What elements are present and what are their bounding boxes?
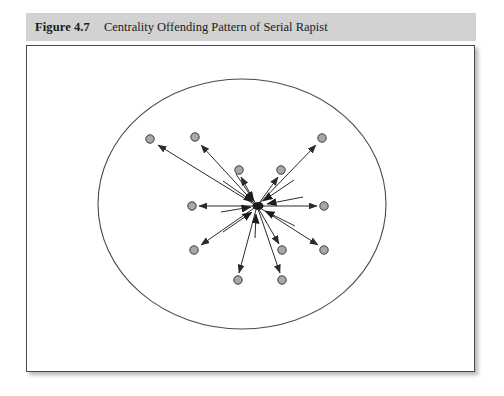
offence-site-upper-right-outer <box>318 134 326 142</box>
offence-site-upper-left-outer <box>146 135 154 143</box>
link-hub-to-offence-site-upper-inner-right <box>257 177 278 206</box>
link-hub-to-offence-site-upper-right-outer <box>257 145 316 206</box>
hub-layer <box>253 202 264 210</box>
offence-site-upper-left-mid <box>191 133 199 141</box>
link-hub-to-offence-site-upper-left-outer <box>158 145 257 206</box>
nodes-layer <box>146 133 328 284</box>
home-base-hub <box>253 202 264 210</box>
inbound-arrow-from-lower-left <box>223 212 252 232</box>
offence-site-upper-inner-right <box>277 166 285 174</box>
offence-site-lower-inner-right <box>278 246 286 254</box>
figure-block: Figure 4.7 Centrality Offending Pattern … <box>26 13 476 373</box>
figure-title: Centrality Offending Pattern of Serial R… <box>104 20 328 35</box>
figure-caption-bar: Figure 4.7 Centrality Offending Pattern … <box>26 13 476 41</box>
link-hub-to-offence-site-upper-left-mid <box>201 145 257 206</box>
offence-site-lower-left <box>190 246 198 254</box>
offence-site-right <box>320 202 328 210</box>
inbound-arrow-from-lower-right <box>265 211 295 226</box>
offence-site-left <box>188 202 196 210</box>
inbound-arrow-from-left <box>221 207 251 212</box>
inbound-arrow-from-right <box>267 197 303 204</box>
boundary-layer <box>98 79 386 329</box>
figure-canvas <box>26 45 475 372</box>
inbound-arrow-from-lower <box>255 214 256 238</box>
figure-number-label: Figure 4.7 <box>35 20 90 35</box>
offence-site-upper-inner-left <box>235 166 243 174</box>
offence-area-boundary-ellipse <box>98 79 386 329</box>
centrality-diagram <box>27 46 474 371</box>
offence-site-lower-right <box>320 246 328 254</box>
offence-site-bottom-left <box>234 276 242 284</box>
offence-site-bottom-right <box>278 276 286 284</box>
